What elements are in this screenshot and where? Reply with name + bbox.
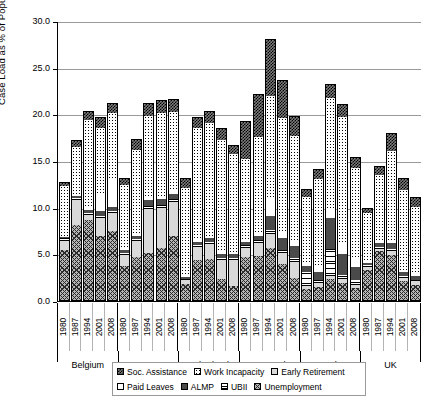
bar-segment-work-incapacity: [132, 150, 141, 233]
legend-item[interactable]: Paid Leaves: [117, 382, 174, 392]
stacked-bar[interactable]: [374, 166, 385, 301]
country-label-uk: UK: [360, 351, 421, 362]
legend-item[interactable]: ALMP: [181, 382, 214, 392]
stacked-bar[interactable]: [337, 104, 348, 301]
bar-slot[interactable]: [191, 22, 203, 301]
stacked-bar[interactable]: [289, 116, 300, 301]
stacked-bar[interactable]: [228, 145, 239, 301]
bar-segment-paid-leaves: [266, 199, 275, 216]
bar-slot[interactable]: [325, 22, 337, 301]
stacked-bar[interactable]: [253, 94, 264, 301]
bar-slot[interactable]: [313, 22, 325, 301]
bar-slot[interactable]: [70, 22, 82, 301]
bar-slot[interactable]: [228, 22, 240, 301]
bar-slot[interactable]: [179, 22, 191, 301]
stacked-bar[interactable]: [180, 178, 191, 301]
stacked-bar[interactable]: [216, 128, 227, 301]
x-year-label: 2001: [154, 318, 164, 337]
bar-slot[interactable]: [264, 22, 276, 301]
bar-slot[interactable]: [58, 22, 70, 301]
bar-slot[interactable]: [410, 22, 422, 301]
stacked-bar[interactable]: [83, 111, 94, 301]
bar-segment-early-retirement: [120, 255, 129, 266]
bar-slot[interactable]: [155, 22, 167, 301]
stacked-bar[interactable]: [386, 133, 397, 301]
bar-segment-early-retirement: [60, 241, 69, 249]
stacked-bar[interactable]: [107, 103, 118, 301]
bar-slot[interactable]: [107, 22, 119, 301]
bar-slot[interactable]: [167, 22, 179, 301]
stacked-bar[interactable]: [301, 189, 312, 301]
bar-slot[interactable]: [276, 22, 288, 301]
bar-segment-unemployment: [132, 257, 141, 300]
bar-slot[interactable]: [143, 22, 155, 301]
legend-item[interactable]: Work Incapacity: [194, 367, 264, 377]
bar-segment-almp: [338, 254, 347, 275]
bar-slot[interactable]: [337, 22, 349, 301]
y-tick-label: 0.0: [2, 297, 50, 306]
stacked-bar[interactable]: [313, 169, 324, 301]
legend-item[interactable]: Unemployment: [254, 382, 321, 392]
bar-segment-unemployment: [241, 257, 250, 300]
x-year-label: 1980: [300, 318, 310, 337]
stacked-bar[interactable]: [119, 178, 130, 301]
stacked-bar[interactable]: [410, 197, 421, 301]
bar-slot[interactable]: [349, 22, 361, 301]
stacked-bar[interactable]: [143, 103, 154, 301]
stacked-bar[interactable]: [325, 84, 336, 301]
x-year-cell: 1987: [70, 303, 82, 351]
bar-group: [240, 22, 301, 301]
legend-item[interactable]: UBII: [221, 382, 248, 392]
bar-slot[interactable]: [373, 22, 385, 301]
bar-slot[interactable]: [240, 22, 252, 301]
bar-slot[interactable]: [288, 22, 300, 301]
bar-segment-early-retirement: [278, 253, 287, 263]
bar-segment-unemployment: [278, 264, 287, 300]
stacked-bar[interactable]: [95, 117, 106, 301]
stacked-bar[interactable]: [398, 178, 409, 301]
legend-item[interactable]: Soc. Assistance: [117, 367, 187, 377]
bar-segment-unemployment: [169, 236, 178, 300]
bar-slot[interactable]: [385, 22, 397, 301]
stacked-bar[interactable]: [192, 117, 203, 301]
country-label-belgium: Belgium: [57, 351, 118, 362]
bar-slot[interactable]: [216, 22, 228, 301]
bar-slot[interactable]: [361, 22, 373, 301]
x-year-cell: 1987: [130, 303, 142, 351]
y-tick-label: 5.0: [2, 250, 50, 259]
stacked-bar[interactable]: [168, 99, 179, 301]
stacked-bar[interactable]: [156, 100, 167, 301]
bar-segment-work-incapacity: [217, 140, 226, 253]
x-year-label: 2008: [106, 318, 116, 337]
bar-slot[interactable]: [82, 22, 94, 301]
bar-segment-early-retirement: [229, 260, 238, 286]
bar-segment-early-retirement: [72, 200, 81, 225]
bar-slot[interactable]: [204, 22, 216, 301]
bar-slot[interactable]: [94, 22, 106, 301]
bar-slot[interactable]: [398, 22, 410, 301]
stacked-bar[interactable]: [362, 208, 373, 301]
country-label-netherlands: Netherlands: [178, 351, 239, 362]
stacked-bar[interactable]: [277, 80, 288, 301]
x-year-cell: 2008: [165, 303, 177, 351]
stacked-bar[interactable]: [240, 121, 251, 301]
stacked-bar[interactable]: [71, 140, 82, 301]
stacked-bar[interactable]: [59, 182, 70, 301]
stacked-bar[interactable]: [131, 139, 142, 301]
stacked-bar[interactable]: [204, 111, 215, 301]
bar-segment-work-incapacity: [351, 168, 360, 259]
stacked-bar[interactable]: [265, 39, 276, 301]
stacked-bar[interactable]: [350, 157, 361, 301]
bar-segment-early-retirement: [193, 247, 202, 260]
bar-slot[interactable]: [119, 22, 131, 301]
legend-item[interactable]: Early Retirement: [271, 367, 344, 377]
bar-segment-work-incapacity: [72, 147, 81, 195]
country-label-text: UK: [384, 360, 397, 370]
x-year-cell: 1980: [360, 303, 372, 351]
bar-slot[interactable]: [131, 22, 143, 301]
bar-slot[interactable]: [252, 22, 264, 301]
x-year-label: 1987: [373, 318, 383, 337]
bar-slot[interactable]: [301, 22, 313, 301]
bar-segment-unemployment: [157, 248, 166, 300]
bar-group: [58, 22, 119, 301]
